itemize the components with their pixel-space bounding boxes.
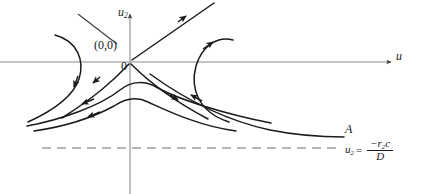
asymptote-point-label-a: A bbox=[345, 123, 352, 135]
equation-numerator: −r2c bbox=[367, 138, 393, 150]
origin-coordinates-label: (0,0) bbox=[94, 39, 117, 51]
equation-lhs: u2 bbox=[345, 144, 354, 157]
trajectory-group bbox=[27, 3, 344, 137]
orbit-hump-outer bbox=[34, 99, 236, 131]
equation-equals: = bbox=[356, 145, 362, 156]
orbit-to-asymptote-A bbox=[150, 74, 344, 137]
phase-plane-figure: u2 u (0,0) 0 A u2= −r2c D bbox=[0, 0, 421, 194]
asymptote-equation: u2= −r2c D bbox=[345, 138, 393, 163]
origin-zero-label: 0 bbox=[121, 60, 127, 72]
arrow-orbit-hump-outer-left bbox=[88, 112, 100, 117]
axis-label-u: u bbox=[396, 50, 402, 62]
equation-fraction: −r2c D bbox=[367, 138, 393, 163]
axis-label-u2: u2 bbox=[118, 6, 128, 20]
orbit-upper-left bbox=[28, 35, 81, 122]
phase-plane-canvas bbox=[0, 0, 421, 194]
arrow-orbit-upper-right bbox=[203, 42, 213, 49]
equation-denominator: D bbox=[373, 151, 387, 163]
arrow-separatrix-lower-left bbox=[93, 77, 100, 83]
arrow-separatrix-upper-right bbox=[178, 16, 186, 22]
separatrix-upper-right bbox=[132, 3, 214, 60]
